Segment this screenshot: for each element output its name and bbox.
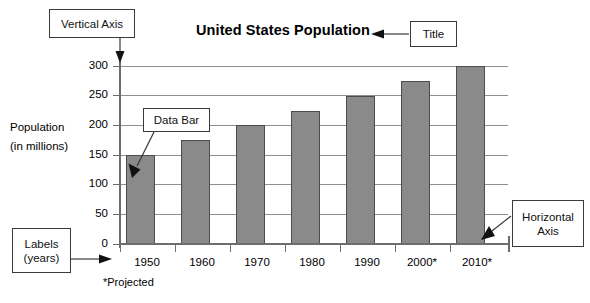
- y-tick-label-300: 300: [78, 60, 108, 72]
- bar-1950[interactable]: [126, 155, 155, 244]
- callout-vertical-axis-label: Vertical Axis: [61, 17, 123, 31]
- x-tick-start: [120, 245, 121, 252]
- callout-labels-years-line1: Labels: [25, 237, 59, 251]
- x-tick-3: [285, 245, 286, 252]
- callout-title[interactable]: Title: [410, 21, 457, 47]
- callout-horizontal-axis-line2: Axis: [537, 224, 559, 238]
- x-label-1990: 1990: [339, 256, 395, 268]
- x-tick-6: [450, 245, 451, 252]
- y-tick-200: [113, 125, 121, 126]
- x-label-1950: 1950: [119, 256, 175, 268]
- x-tick-4: [340, 245, 341, 252]
- y-axis-title-line2: (in millions): [10, 137, 68, 156]
- callout-data-bar[interactable]: Data Bar: [143, 108, 210, 132]
- callout-horizontal-axis-line1: Horizontal: [522, 210, 574, 224]
- bar-1970[interactable]: [236, 125, 265, 244]
- y-tick-label-100: 100: [78, 178, 108, 190]
- bar-1960[interactable]: [181, 140, 210, 244]
- y-tick-300: [113, 66, 121, 67]
- callout-title-label: Title: [423, 27, 444, 41]
- y-tick-label-150: 150: [78, 149, 108, 161]
- callout-labels-years-line2: (years): [24, 251, 60, 265]
- y-tick-150: [113, 155, 121, 156]
- horizontal-axis-line: [120, 243, 510, 245]
- x-tick-5: [395, 245, 396, 252]
- gridline-250: [120, 95, 508, 96]
- footnote: *Projected: [103, 276, 154, 288]
- bar-2010[interactable]: [456, 66, 485, 244]
- y-tick-50: [113, 214, 121, 215]
- bar-2000[interactable]: [401, 81, 430, 244]
- x-tick-2: [230, 245, 231, 252]
- gridline-300: [120, 66, 508, 67]
- callout-data-bar-label: Data Bar: [154, 113, 199, 127]
- chart-title: United States Population: [196, 22, 370, 38]
- plot-area: [120, 66, 508, 244]
- bar-1980[interactable]: [291, 111, 320, 245]
- x-label-1960: 1960: [174, 256, 230, 268]
- bar-1990[interactable]: [346, 96, 375, 244]
- x-label-2000: 2000*: [394, 256, 450, 268]
- callout-vertical-axis[interactable]: Vertical Axis: [49, 9, 135, 38]
- y-tick-250: [113, 95, 121, 96]
- horizontal-axis-endcap: [508, 236, 510, 252]
- x-label-1970: 1970: [229, 256, 285, 268]
- x-label-2010: 2010*: [449, 256, 505, 268]
- x-label-1980: 1980: [284, 256, 340, 268]
- y-tick-label-200: 200: [78, 119, 108, 131]
- y-tick-label-250: 250: [78, 89, 108, 101]
- y-tick-label-50: 50: [78, 208, 108, 220]
- x-tick-1: [175, 245, 176, 252]
- callout-labels-years[interactable]: Labels (years): [12, 228, 71, 273]
- leader-vertical-axis: [116, 38, 125, 63]
- callout-horizontal-axis[interactable]: Horizontal Axis: [512, 200, 584, 247]
- chart-page: United States Population Population (in …: [0, 0, 590, 303]
- y-tick-100: [113, 184, 121, 185]
- y-axis-title-line1: Population: [10, 118, 68, 137]
- y-axis-title: Population (in millions): [10, 118, 68, 156]
- y-tick-label-0: 0: [78, 238, 108, 250]
- leader-title: [371, 30, 409, 39]
- leader-labels-years: [71, 255, 112, 264]
